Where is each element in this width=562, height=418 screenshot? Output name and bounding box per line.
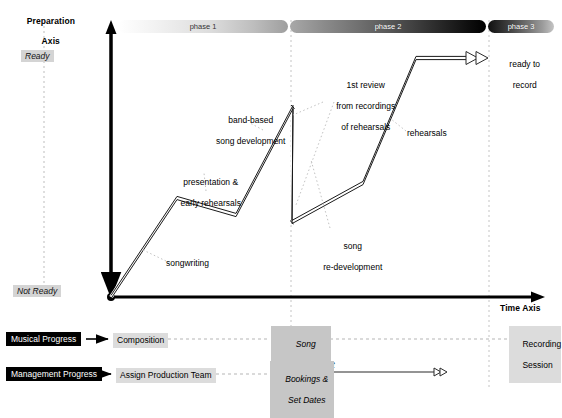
lane-item-assign-production-team[interactable]: Assign Production Team <box>116 368 216 383</box>
lane-item-bookings-set-dates-line2: Set Dates <box>288 395 325 405</box>
lane-item-recording-session[interactable]: Recording Session <box>509 326 561 383</box>
phase-pill-3[interactable]: phase 3 <box>488 20 554 33</box>
lane-item-recording-session-line1: Recording <box>522 339 561 349</box>
lane-item-composition[interactable]: Composition <box>113 333 168 348</box>
annotation-first-review-line2: from recordings <box>336 101 395 111</box>
annotation-presentation-line2: early rehearsals <box>180 198 240 208</box>
management-progress-double-arrowhead <box>434 368 447 376</box>
annotation-first-review: 1st review from recordings of rehearsals <box>302 69 420 143</box>
y-state-not-ready: Not Ready <box>13 285 61 297</box>
annotation-presentation-line1: presentation & <box>183 177 238 187</box>
lane-key-musical-progress[interactable]: Musical Progress <box>6 332 81 346</box>
annotation-ready-to-record: ready to record <box>489 48 551 101</box>
preparation-axis-title: Preparation Axis <box>0 6 92 56</box>
annotation-song-redevelopment-line1: song <box>344 241 362 251</box>
annotation-first-review-line3: of rehearsals <box>341 122 390 132</box>
annotation-band-based-line2: song development <box>216 136 285 146</box>
phase-pill-2[interactable]: phase 2 <box>290 20 486 33</box>
annotation-song-redevelopment: song re-development <box>298 230 398 283</box>
lane-item-recording-session-line2: Session <box>522 360 552 370</box>
annotation-rehearsals: rehearsals <box>407 128 447 139</box>
annotation-band-based: band-based song development <box>176 104 316 157</box>
annotation-ready-to-record-line2: record <box>513 80 537 90</box>
annotation-first-review-line1: 1st review <box>347 80 385 90</box>
y-state-ready: Ready <box>21 50 54 62</box>
annotation-band-based-line1: band-based <box>228 115 273 125</box>
lane-item-bookings-set-dates[interactable]: Bookings & Set Dates <box>270 361 334 418</box>
lane-item-bookings-set-dates-line1: Bookings & <box>285 374 328 384</box>
lane-key-management-progress[interactable]: Management Progress <box>6 367 102 381</box>
leader-song-redev <box>311 160 330 228</box>
annotation-song-redevelopment-line2: re-development <box>323 262 382 272</box>
annotation-ready-to-record-line1: ready to <box>509 59 540 69</box>
ready-to-record-double-arrowhead <box>466 52 488 65</box>
annotation-presentation: presentation & early rehearsals <box>151 166 261 219</box>
phase-pill-1[interactable]: phase 1 <box>118 20 288 33</box>
annotation-songwriting: songwriting <box>166 258 209 269</box>
time-axis-title: Time Axis <box>500 303 541 313</box>
preparation-axis-title-line1: Preparation <box>27 16 75 26</box>
leader-songwriting <box>141 249 166 261</box>
preparation-axis-title-line2: Axis <box>42 36 60 46</box>
lane-item-song-development-line1: Song <box>296 339 316 349</box>
x-axis-arrowhead <box>531 292 545 303</box>
